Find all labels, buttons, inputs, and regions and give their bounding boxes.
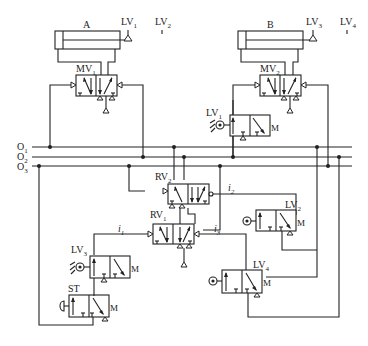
svg-text:B: B [267,19,274,30]
svg-text:ST: ST [68,283,80,294]
svg-text:LV3: LV3 [306,16,322,30]
svg-text:LV4: LV4 [340,16,356,30]
svg-text:A: A [83,19,91,30]
svg-text:M: M [297,218,305,228]
svg-text:LV1: LV1 [206,107,222,121]
svg-text:LV3: LV3 [71,244,87,258]
svg-text:M: M [131,264,139,274]
limit-valve-lv4: LV4 M [209,259,271,297]
svg-text:M: M [263,278,271,288]
limit-valve-lv1: LV1 M [206,100,279,157]
svg-text:RV1: RV1 [150,209,167,223]
svg-text:M: M [271,123,279,133]
svg-text:LV1: LV1 [121,16,137,30]
start-valve-st[interactable]: ST M [60,278,118,321]
push-button-icon [60,301,64,311]
limit-valve-lv3: LV3 M [70,244,139,282]
svg-text:RV2: RV2 [155,171,172,185]
pneumatic-circuit-diagram: O1 O2 O3 A LV1 LV2 MV1 [0,0,368,346]
limit-valve-lv2: LV2 M [243,199,317,250]
limit-valve-lv1-actuator-a: LV1 [121,16,137,41]
limit-valve-lv4-marker: LV4 [340,16,356,34]
svg-text:i1: i1 [118,223,124,237]
limit-valve-lv3-actuator-b: LV3 [306,16,322,41]
svg-text:M: M [110,303,118,313]
limit-valve-lv2-marker: LV2 [155,16,171,34]
main-valve-mv1: MV1 [50,63,143,157]
svg-text:LV2: LV2 [155,16,171,30]
